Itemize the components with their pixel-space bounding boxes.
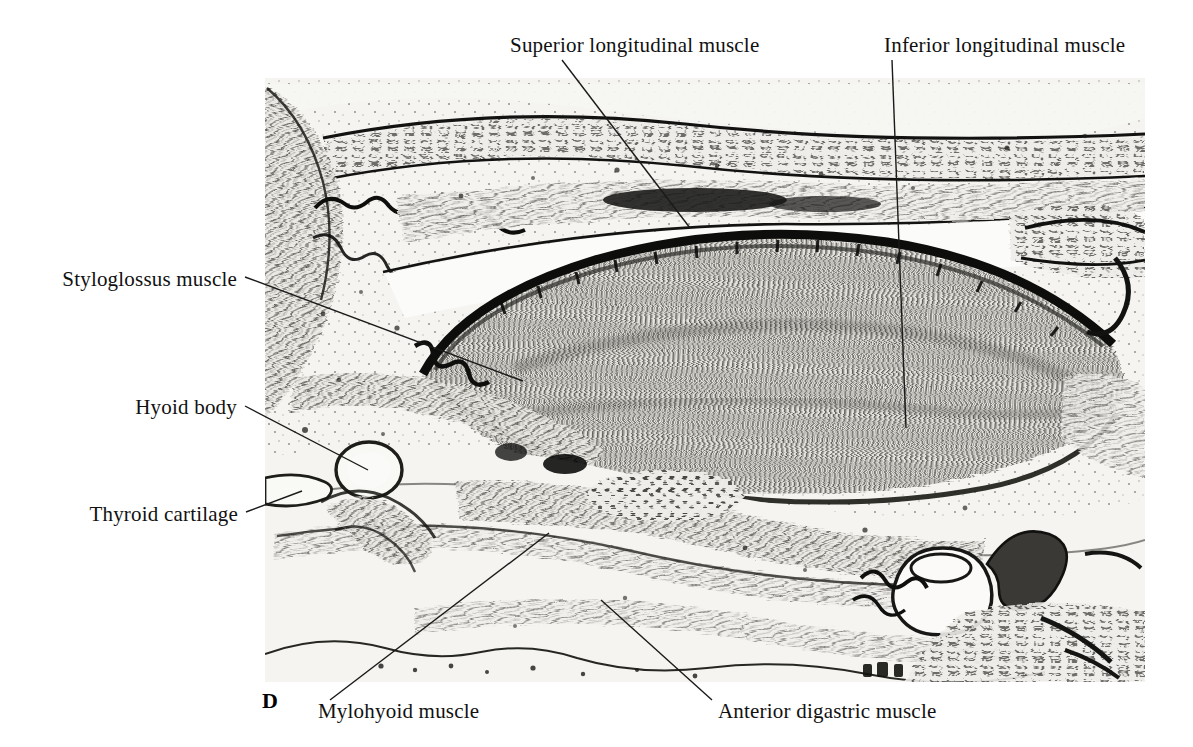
anatomy-figure: Superior longitudinal muscleInferior lon… bbox=[0, 0, 1193, 747]
histology-micrograph bbox=[265, 78, 1145, 682]
label-superior-longitudinal-muscle: Superior longitudinal muscle bbox=[510, 33, 759, 58]
label-styloglossus-muscle: Styloglossus muscle bbox=[0, 267, 237, 292]
hard-palate bbox=[265, 84, 1145, 180]
lower-tooth-shadows bbox=[863, 662, 903, 677]
label-mylohyoid-muscle: Mylohyoid muscle bbox=[318, 699, 479, 724]
label-hyoid-body: Hyoid body bbox=[0, 395, 237, 420]
panel-letter: D bbox=[262, 688, 278, 714]
hyoid-body-ossicle bbox=[336, 442, 402, 498]
label-thyroid-cartilage: Thyroid cartilage bbox=[0, 502, 238, 527]
label-inferior-longitudinal-muscle: Inferior longitudinal muscle bbox=[884, 33, 1125, 58]
label-anterior-digastric-muscle: Anterior digastric muscle bbox=[718, 699, 936, 724]
